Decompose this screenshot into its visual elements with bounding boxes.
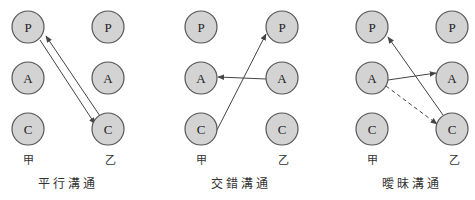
svg-text:P: P [104, 20, 111, 35]
svg-text:A: A [196, 71, 206, 86]
node-right-c: C [436, 113, 468, 145]
arrow-right-c-to-left-p [388, 37, 443, 115]
node-left-a: A [356, 62, 388, 94]
diagram-crossed: P A C P A C 甲 乙 交錯溝通 [185, 11, 298, 191]
svg-text:A: A [367, 71, 377, 86]
svg-text:C: C [278, 122, 287, 137]
svg-text:C: C [104, 122, 113, 137]
svg-text:A: A [103, 71, 113, 86]
svg-text:A: A [23, 71, 33, 86]
party-left-label: 甲 [196, 154, 207, 167]
transactional-analysis-diagrams: P A C P A C 甲 乙 平行溝通 P A C P A C 甲 乙 交錯溝… [0, 0, 475, 200]
svg-text:C: C [197, 122, 206, 137]
svg-text:C: C [24, 122, 33, 137]
node-left-p: P [185, 11, 217, 43]
node-left-c: C [12, 113, 44, 145]
arrow-left-p-to-right-c [40, 40, 95, 124]
svg-text:P: P [278, 20, 285, 35]
node-left-p: P [12, 11, 44, 43]
arrow-left-a-to-right-a [388, 73, 436, 80]
svg-text:P: P [368, 20, 375, 35]
party-left-label: 甲 [367, 154, 378, 167]
dashed-arrow-left-a-to-right-c [386, 86, 437, 124]
node-right-p: P [436, 11, 468, 43]
diagram-caption: 交錯溝通 [211, 176, 271, 191]
party-right-label: 乙 [449, 154, 460, 167]
svg-text:P: P [197, 20, 204, 35]
diagram-parallel: P A C P A C 甲 乙 平行溝通 [12, 11, 124, 191]
node-left-a: A [185, 62, 217, 94]
svg-text:C: C [448, 122, 457, 137]
node-right-p: P [266, 11, 298, 43]
diagram-caption: 平行溝通 [38, 177, 98, 191]
node-left-a: A [12, 62, 44, 94]
node-right-a: A [266, 62, 298, 94]
party-right-label: 乙 [278, 154, 289, 167]
node-left-c: C [185, 113, 217, 145]
svg-text:P: P [448, 20, 455, 35]
diagram-ambiguous: P A C P A C 甲 乙 曖昧溝通 [356, 11, 468, 191]
svg-text:A: A [447, 71, 457, 86]
node-right-c: C [92, 113, 124, 145]
diagram-caption: 曖昧溝通 [382, 177, 442, 191]
node-left-c: C [356, 113, 388, 145]
node-right-c: C [266, 113, 298, 145]
svg-text:C: C [368, 122, 377, 137]
party-left-label: 甲 [23, 154, 34, 167]
node-right-p: P [92, 11, 124, 43]
party-right-label: 乙 [105, 154, 116, 167]
node-right-a: A [436, 62, 468, 94]
node-left-p: P [356, 11, 388, 43]
node-right-a: A [92, 62, 124, 94]
arrow-right-a-to-left-a [218, 77, 266, 79]
svg-text:P: P [24, 20, 31, 35]
svg-text:A: A [277, 71, 287, 86]
arrow-left-c-to-right-p [217, 34, 266, 130]
